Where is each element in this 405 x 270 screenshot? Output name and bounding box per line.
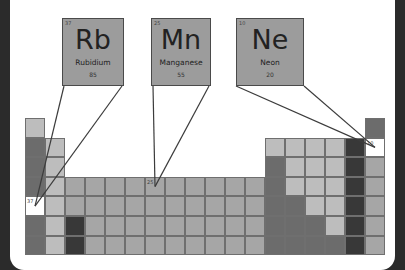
element-cell (285, 236, 305, 256)
element-cell (245, 236, 265, 256)
element-cell (145, 216, 165, 236)
element-cell (25, 118, 45, 138)
element-cell (65, 177, 85, 197)
element-cell (45, 177, 65, 197)
element-cell (285, 157, 305, 177)
element-cell (285, 138, 305, 158)
element-cell (325, 138, 345, 158)
element-cell (125, 236, 145, 256)
element-cell (245, 177, 265, 197)
element-cell (105, 236, 125, 256)
element-cell (345, 216, 365, 236)
element-cell (205, 236, 225, 256)
element-cell (105, 216, 125, 236)
element-cell (365, 196, 385, 216)
element-symbol: Rb (63, 25, 123, 55)
atomic-mass: 55 (152, 71, 210, 78)
element-cell (225, 216, 245, 236)
element-cell (85, 216, 105, 236)
cell-atomic-number: 25 (147, 179, 153, 185)
element-cell (225, 196, 245, 216)
element-cell (85, 236, 105, 256)
element-cell (25, 236, 45, 256)
element-symbol: Mn (152, 25, 210, 55)
highlighted-element-cell: 25 (145, 177, 165, 197)
element-cell (365, 118, 385, 138)
element-cell (365, 177, 385, 197)
element-cell (185, 216, 205, 236)
element-cell (265, 138, 285, 158)
element-cell (185, 236, 205, 256)
element-cell (265, 236, 285, 256)
element-cell (125, 216, 145, 236)
element-cell (65, 216, 85, 236)
element-cell (305, 236, 325, 256)
element-cell (245, 196, 265, 216)
element-cell (345, 196, 365, 216)
element-cell (305, 177, 325, 197)
element-cell (365, 216, 385, 236)
atomic-number: 37 (65, 20, 71, 26)
element-cell (225, 236, 245, 256)
element-cell (45, 236, 65, 256)
element-cell (325, 236, 345, 256)
element-cell (105, 177, 125, 197)
element-cell (325, 196, 345, 216)
element-cell (65, 236, 85, 256)
element-cell (305, 196, 325, 216)
element-cell (285, 216, 305, 236)
element-symbol: Ne (237, 25, 303, 55)
element-cell (325, 177, 345, 197)
element-cell (45, 157, 65, 177)
atomic-number: 25 (154, 20, 160, 26)
element-cell (265, 196, 285, 216)
atomic-number: 10 (239, 20, 245, 26)
element-cell (165, 236, 185, 256)
cell-atomic-number: 10 (367, 140, 373, 146)
element-cell (225, 177, 245, 197)
element-cell (285, 196, 305, 216)
callout-rubidium: 37 Rb Rubidium 85 (62, 18, 124, 86)
element-cell (345, 157, 365, 177)
element-cell (305, 138, 325, 158)
element-cell (365, 236, 385, 256)
element-cell (265, 157, 285, 177)
element-cell (25, 138, 45, 158)
element-cell (45, 196, 65, 216)
element-cell (325, 216, 345, 236)
highlighted-element-cell: 37 (25, 196, 45, 216)
element-cell (105, 196, 125, 216)
element-cell (365, 157, 385, 177)
element-cell (205, 177, 225, 197)
element-cell (265, 216, 285, 236)
element-cell (25, 216, 45, 236)
element-cell (125, 196, 145, 216)
callout-neon: 10 Ne Neon 20 (236, 18, 304, 86)
element-cell (45, 138, 65, 158)
element-cell (125, 177, 145, 197)
element-cell (65, 196, 85, 216)
atomic-mass: 20 (237, 71, 303, 78)
element-cell (45, 216, 65, 236)
element-cell (285, 177, 305, 197)
element-cell (345, 138, 365, 158)
highlighted-element-cell: 10 (365, 138, 385, 158)
element-cell (185, 196, 205, 216)
callout-manganese: 25 Mn Manganese 55 (151, 18, 211, 86)
element-cell (325, 157, 345, 177)
element-name: Manganese (152, 58, 210, 67)
element-cell (205, 196, 225, 216)
element-cell (165, 196, 185, 216)
atomic-mass: 85 (63, 71, 123, 78)
element-name: Rubidium (63, 58, 123, 67)
element-cell (25, 177, 45, 197)
cell-atomic-number: 37 (27, 198, 33, 204)
element-cell (345, 236, 365, 256)
element-cell (85, 196, 105, 216)
element-cell (345, 177, 365, 197)
element-cell (165, 177, 185, 197)
element-cell (25, 157, 45, 177)
element-cell (145, 236, 165, 256)
element-cell (145, 196, 165, 216)
element-cell (205, 216, 225, 236)
